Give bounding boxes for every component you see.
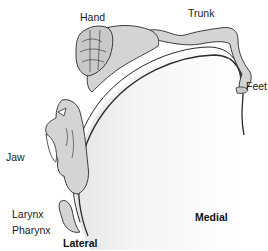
face-figure: [46, 100, 89, 194]
homunculus-diagram: Hand Trunk Feet Jaw Larynx Pharynx Later…: [0, 0, 268, 251]
label-trunk: Trunk: [188, 8, 214, 19]
label-pharynx: Pharynx: [12, 225, 51, 236]
label-hand: Hand: [80, 12, 105, 23]
label-lateral: Lateral: [63, 238, 97, 249]
label-feet: Feet: [246, 81, 267, 92]
label-jaw: Jaw: [6, 152, 25, 163]
label-larynx: Larynx: [12, 209, 44, 220]
label-medial: Medial: [195, 212, 228, 223]
